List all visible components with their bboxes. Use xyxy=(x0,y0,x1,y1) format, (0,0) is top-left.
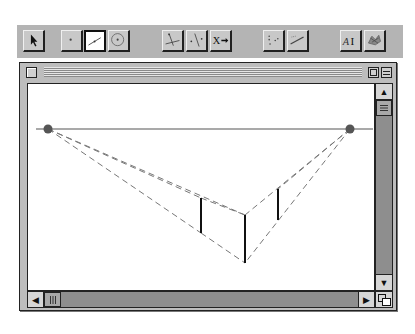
horizontal-scroll-thumb[interactable] xyxy=(44,292,61,307)
up-arrow-glyph: ▲ xyxy=(380,87,389,97)
right-arrow-glyph: ▶ xyxy=(363,295,370,305)
circle-icon xyxy=(109,31,128,50)
svg-text:X: X xyxy=(213,35,221,46)
custom-tool-button[interactable] xyxy=(364,30,386,52)
resize-grow-icon[interactable] xyxy=(375,291,393,308)
svg-text:I: I xyxy=(351,35,355,47)
collapse-box-icon[interactable] xyxy=(381,67,392,78)
right-vanishing-point[interactable] xyxy=(346,125,355,134)
down-arrow-glyph: ▼ xyxy=(380,278,389,288)
svg-text:A: A xyxy=(342,36,350,47)
window-title-bar[interactable] xyxy=(20,63,396,81)
segment-tool-button[interactable] xyxy=(84,30,106,52)
scroll-right-arrow-icon[interactable]: ▶ xyxy=(358,292,374,307)
vertical-edges xyxy=(201,189,278,263)
perpendicular-tool-button[interactable] xyxy=(162,30,184,52)
construction-lines xyxy=(48,129,350,263)
close-box-icon[interactable] xyxy=(26,67,37,78)
parallel-line-icon xyxy=(187,31,206,50)
segment-icon xyxy=(86,32,104,50)
parallel-tool-button[interactable] xyxy=(186,30,208,52)
toolbar: X AI xyxy=(17,25,403,58)
drawing-canvas[interactable] xyxy=(27,83,375,291)
transform-x-arrow-icon: X xyxy=(211,31,230,50)
scroll-up-arrow-icon[interactable]: ▲ xyxy=(376,84,392,100)
text-tool-button[interactable]: AI xyxy=(340,30,362,52)
grip-icon xyxy=(380,104,388,112)
arrow-pointer-icon xyxy=(24,31,43,50)
text-label-icon: AI xyxy=(341,31,360,50)
graph-line-icon xyxy=(288,31,307,50)
vertical-scrollbar[interactable]: ▲ ▼ xyxy=(375,83,393,291)
measure-tool-button[interactable] xyxy=(263,30,285,52)
grip-icon xyxy=(49,296,57,304)
graph-tool-button[interactable] xyxy=(287,30,309,52)
left-arrow-glyph: ◀ xyxy=(32,295,39,305)
vertical-scroll-thumb[interactable] xyxy=(376,100,392,116)
point-tool-button[interactable] xyxy=(61,30,83,52)
zoom-box-icon[interactable] xyxy=(368,67,379,78)
scroll-left-arrow-icon[interactable]: ◀ xyxy=(28,292,44,307)
horizontal-scrollbar[interactable]: ◀ ▶ xyxy=(27,291,375,308)
circle-tool-button[interactable] xyxy=(108,30,130,52)
point-icon xyxy=(62,31,81,50)
select-tool-button[interactable] xyxy=(23,30,45,52)
custom-tool-icon xyxy=(365,31,384,50)
scroll-down-arrow-icon[interactable]: ▼ xyxy=(376,274,392,290)
title-stripes xyxy=(44,67,362,77)
perspective-drawing xyxy=(28,84,374,290)
perpendicular-line-icon xyxy=(163,31,182,50)
sketch-window: ▲ ▼ ◀ ▶ xyxy=(19,62,397,311)
measure-points-icon xyxy=(264,31,283,50)
left-vanishing-point[interactable] xyxy=(44,125,53,134)
transform-tool-button[interactable]: X xyxy=(210,30,232,52)
